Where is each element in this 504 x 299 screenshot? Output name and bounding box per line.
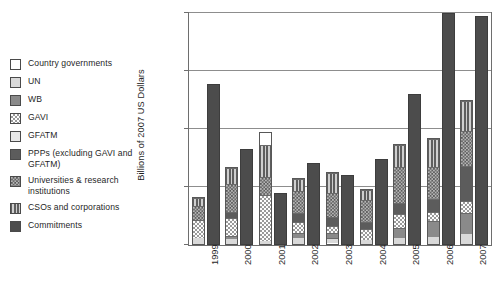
x-tick-label: 2007 <box>478 244 488 265</box>
stack-segment[interactable] <box>193 220 204 239</box>
stack-segment[interactable] <box>327 193 338 217</box>
y-tick-mark <box>184 186 188 187</box>
legend-swatch-gfatm <box>10 131 21 142</box>
stack-segment[interactable] <box>461 101 472 131</box>
commitments-bar[interactable] <box>307 163 320 245</box>
stack-segment[interactable] <box>327 217 338 226</box>
stack-segment[interactable] <box>461 131 472 166</box>
stack-segment[interactable] <box>428 139 439 166</box>
stack-segment[interactable] <box>193 238 204 244</box>
legend-item-label: CSOs and corporations <box>28 202 119 213</box>
stack-segment[interactable] <box>428 167 439 199</box>
legend-swatch-un <box>10 77 21 88</box>
stack-segment[interactable] <box>461 166 472 200</box>
stack-segment[interactable] <box>226 218 237 236</box>
bar-group <box>390 13 424 245</box>
stack-segment[interactable] <box>226 184 237 212</box>
commitments-bar[interactable] <box>274 193 287 245</box>
stacked-bar[interactable] <box>460 100 473 245</box>
stacked-bar[interactable] <box>259 132 272 245</box>
stack-segment[interactable] <box>293 191 304 212</box>
stack-segment[interactable] <box>361 240 372 244</box>
stack-segment[interactable] <box>226 168 237 184</box>
x-tick-label: 2000 <box>243 244 253 265</box>
x-tick-label: 1999 <box>210 244 220 265</box>
stack-segment[interactable] <box>260 241 271 244</box>
stack-segment[interactable] <box>461 201 472 214</box>
bar-group <box>256 13 290 245</box>
x-tick-label: 2001 <box>277 244 287 265</box>
stack-segment[interactable] <box>394 214 405 228</box>
legend-swatch-gavi <box>10 113 21 124</box>
x-tick-label: 2006 <box>445 244 455 265</box>
stacked-bar[interactable] <box>225 167 238 245</box>
commitments-bar[interactable] <box>475 16 488 245</box>
stacked-bar[interactable] <box>292 178 305 245</box>
y-tick-mark <box>184 70 188 71</box>
bar-group <box>223 13 257 245</box>
stack-segment[interactable] <box>428 199 439 213</box>
stack-segment[interactable] <box>293 179 304 191</box>
legend-swatch-commitments <box>10 221 21 232</box>
legend-swatch-wb <box>10 95 21 106</box>
commitments-bar[interactable] <box>408 94 421 245</box>
x-tick-label: 2005 <box>411 244 421 265</box>
stack-segment[interactable] <box>226 239 237 244</box>
stack-segment[interactable] <box>361 222 372 230</box>
bar-group <box>457 13 491 245</box>
legend-item[interactable]: Commitments <box>10 220 160 232</box>
stack-segment[interactable] <box>327 173 338 193</box>
legend-swatch-ppps <box>10 149 21 160</box>
stack-segment[interactable] <box>293 222 304 233</box>
stack-segment[interactable] <box>428 212 439 221</box>
stack-segment[interactable] <box>461 234 472 244</box>
stack-segment[interactable] <box>428 237 439 244</box>
stack-segment[interactable] <box>361 229 372 239</box>
stack-segment[interactable] <box>327 243 338 244</box>
bar-group <box>189 13 223 245</box>
y-axis-title-text: Billions of 2007 US Dollars <box>136 40 146 210</box>
stacked-bar[interactable] <box>192 197 205 245</box>
x-tick-label: 2003 <box>344 244 354 265</box>
y-tick-mark <box>184 128 188 129</box>
bar-group <box>424 13 458 245</box>
stack-segment[interactable] <box>193 206 204 219</box>
stack-segment[interactable] <box>193 198 204 206</box>
bar-group <box>290 13 324 245</box>
stack-segment[interactable] <box>394 238 405 244</box>
stack-segment[interactable] <box>394 145 405 167</box>
stack-segment[interactable] <box>394 203 405 214</box>
plot-area: 00.511.521999200020012002200320042005200… <box>188 12 492 246</box>
commitments-bar[interactable] <box>341 175 354 245</box>
legend-swatch-csos <box>10 203 21 214</box>
x-tick-label: 2004 <box>378 244 388 265</box>
x-tick-label: 2002 <box>310 244 320 265</box>
stacked-bar[interactable] <box>427 138 440 245</box>
legend-item-label: GAVI <box>28 112 48 123</box>
y-tick-mark <box>184 12 188 13</box>
stack-segment[interactable] <box>428 221 439 237</box>
stacked-bar[interactable] <box>326 172 339 245</box>
commitments-bar[interactable] <box>240 149 253 245</box>
stack-segment[interactable] <box>327 226 338 233</box>
commitments-bar[interactable] <box>375 159 388 245</box>
stacked-bar[interactable] <box>360 189 373 245</box>
stack-segment[interactable] <box>394 167 405 203</box>
stack-segment[interactable] <box>260 145 271 177</box>
stack-segment[interactable] <box>293 238 304 244</box>
stack-segment[interactable] <box>461 213 472 234</box>
stack-segment[interactable] <box>361 200 372 221</box>
legend-item-label: Commitments <box>28 220 82 231</box>
stack-segment[interactable] <box>260 177 271 195</box>
stack-segment[interactable] <box>361 190 372 200</box>
stack-segment[interactable] <box>293 213 304 222</box>
bar-group <box>323 13 357 245</box>
y-axis-title: Billions of 2007 US Dollars <box>136 0 146 40</box>
commitments-bar[interactable] <box>442 13 455 245</box>
commitments-bar[interactable] <box>207 84 220 245</box>
stacked-bar[interactable] <box>393 144 406 245</box>
stack-segment[interactable] <box>394 228 405 238</box>
chart-figure: Country governmentsUNWBGAVIGFATMPPPs (ex… <box>0 0 504 299</box>
stack-segment[interactable] <box>260 195 271 241</box>
legend-swatch-universities <box>10 176 21 187</box>
